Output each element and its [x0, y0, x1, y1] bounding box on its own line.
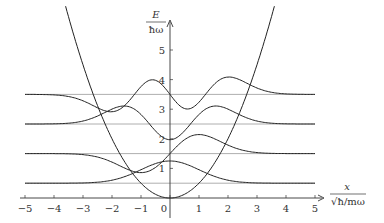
x-tick-label: −5	[18, 203, 33, 214]
x-label-num: x	[344, 181, 350, 192]
x-tick-label: −4	[47, 203, 62, 214]
x-tick-label: 4	[283, 203, 289, 214]
y-tick-label: 3	[159, 104, 165, 115]
y-tick-label: 1	[159, 163, 165, 174]
y-tick-label: 4	[159, 75, 165, 86]
x-tick-label: 0	[161, 203, 167, 214]
y-tick-label: 2	[159, 134, 165, 145]
x-tick-label: −1	[134, 203, 149, 214]
y-tick-label: 5	[159, 45, 165, 56]
x-tick-label: −2	[105, 203, 120, 214]
y-ticks: 12345	[159, 45, 173, 174]
x-tick-label: 1	[196, 203, 202, 214]
y-label-den: ħω	[149, 24, 164, 35]
x-tick-label: 2	[225, 203, 231, 214]
oscillator-diagram: −5−4−3−2−1012345 12345 E ħω x √ħ/mω	[0, 0, 384, 223]
x-tick-label: 5	[312, 203, 318, 214]
x-tick-label: 3	[254, 203, 260, 214]
x-label-den: √ħ/mω	[331, 196, 365, 207]
y-label-num: E	[151, 9, 160, 20]
x-tick-label: −3	[76, 203, 91, 214]
